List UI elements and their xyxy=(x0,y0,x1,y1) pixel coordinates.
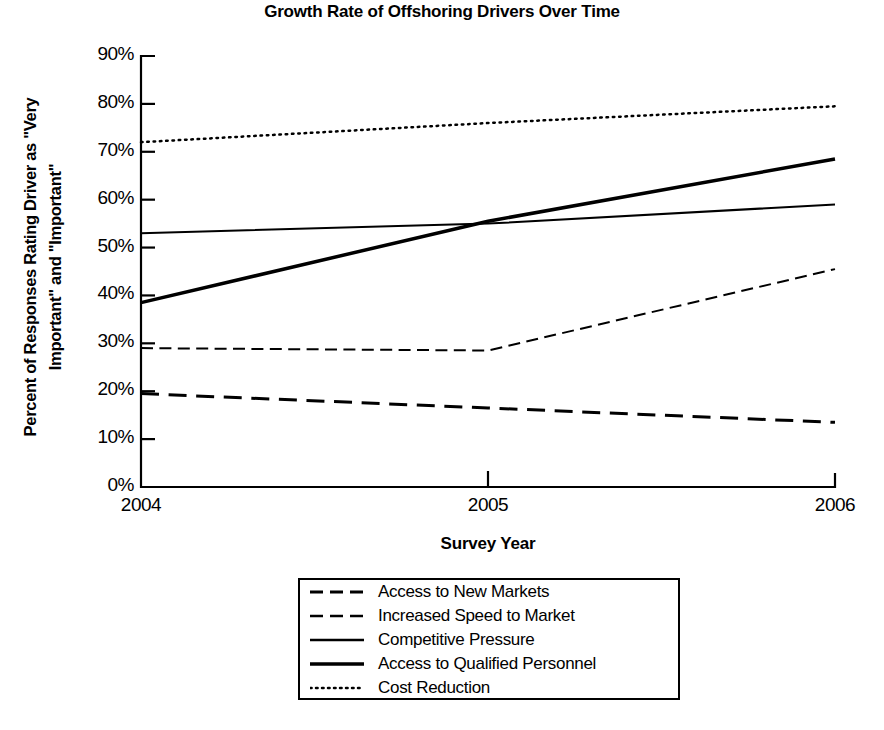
chart-container: Growth Rate of Offshoring Drivers Over T… xyxy=(0,0,884,730)
series-line-2 xyxy=(141,204,835,233)
legend-item-4[interactable]: Cost Reduction xyxy=(300,676,678,700)
legend-swatch-icon xyxy=(310,586,364,598)
legend-swatch-icon xyxy=(310,658,364,670)
legend-item-1[interactable]: Increased Speed to Market xyxy=(300,604,678,628)
legend-label: Access to Qualified Personnel xyxy=(378,654,596,674)
legend-swatch-icon xyxy=(310,682,364,694)
legend-label: Cost Reduction xyxy=(378,678,490,698)
series-line-4 xyxy=(141,106,835,142)
axis-spine xyxy=(141,56,835,487)
legend-item-0[interactable]: Access to New Markets xyxy=(300,580,678,604)
legend-label: Access to New Markets xyxy=(378,582,549,602)
x-axis-title: Survey Year xyxy=(141,534,835,554)
legend-label: Increased Speed to Market xyxy=(378,606,575,626)
legend-item-3[interactable]: Access to Qualified Personnel xyxy=(300,652,678,676)
legend-label: Competitive Pressure xyxy=(378,630,535,650)
chart-legend: Access to New MarketsIncreased Speed to … xyxy=(298,578,680,700)
legend-swatch-icon xyxy=(310,610,364,622)
series-line-1 xyxy=(141,269,835,350)
legend-swatch-icon xyxy=(310,634,364,646)
series-line-0 xyxy=(141,394,835,423)
legend-item-2[interactable]: Competitive Pressure xyxy=(300,628,678,652)
